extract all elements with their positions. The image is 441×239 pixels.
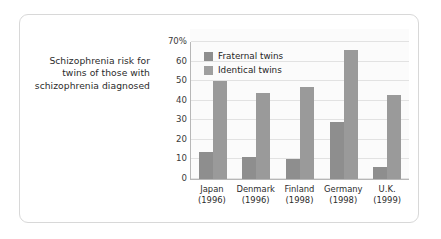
x-axis-label: Japan(1996) <box>190 184 234 206</box>
bar <box>286 159 300 179</box>
legend-swatch-icon <box>204 66 213 75</box>
y-axis-tick-label: 40 <box>176 95 187 105</box>
legend-item-fraternal: Fraternal twins <box>204 49 283 63</box>
x-axis-label-country: Japan <box>190 184 234 195</box>
x-axis-label-country: Denmark <box>234 184 278 195</box>
x-axis-label-year: (1996) <box>190 195 234 206</box>
bar-group <box>330 42 358 179</box>
bar <box>242 157 256 179</box>
legend-swatch-icon <box>204 52 213 61</box>
bar <box>373 167 387 179</box>
y-axis-tick-label: 60 <box>176 56 187 66</box>
y-axis-tick-label: 30 <box>176 114 187 124</box>
bar <box>199 152 213 179</box>
x-axis-label: U.K.(1999) <box>365 184 409 206</box>
bar-group <box>286 42 314 179</box>
x-axis-label-country: Finland <box>278 184 322 195</box>
bar <box>387 95 401 179</box>
x-axis-label-country: Germany <box>321 184 365 195</box>
x-axis-labels: Japan(1996)Denmark(1996)Finland(1998)Ger… <box>190 184 409 206</box>
x-axis-label: Germany(1998) <box>321 184 365 206</box>
bar-chart: 010203040506070% Japan(1996)Denmark(1996… <box>170 29 408 214</box>
bar <box>344 50 358 179</box>
bar <box>256 93 270 179</box>
x-axis-label: Denmark(1996) <box>234 184 278 206</box>
x-axis-label-year: (1998) <box>278 195 322 206</box>
x-axis-label-year: (1998) <box>321 195 365 206</box>
x-axis-label-year: (1999) <box>365 195 409 206</box>
bar <box>300 87 314 179</box>
chart-legend: Fraternal twins Identical twins <box>204 49 283 77</box>
legend-label: Identical twins <box>218 65 282 75</box>
y-axis-tick-label: 50 <box>176 75 187 85</box>
bar <box>330 122 344 179</box>
bar-group <box>373 42 401 179</box>
y-axis-tick-label: 10 <box>176 153 187 163</box>
y-axis-tick-label: 70% <box>168 36 187 46</box>
legend-item-identical: Identical twins <box>204 63 283 77</box>
x-axis-label: Finland(1998) <box>278 184 322 206</box>
bar <box>213 81 227 179</box>
y-axis-tick-label: 0 <box>182 173 187 183</box>
y-axis-tick-label: 20 <box>176 134 187 144</box>
chart-caption: Schizophrenia risk for twins of those wi… <box>34 55 150 92</box>
chart-card: Schizophrenia risk for twins of those wi… <box>19 14 419 223</box>
x-axis-label-year: (1996) <box>234 195 278 206</box>
legend-label: Fraternal twins <box>218 51 283 61</box>
x-axis-label-country: U.K. <box>365 184 409 195</box>
